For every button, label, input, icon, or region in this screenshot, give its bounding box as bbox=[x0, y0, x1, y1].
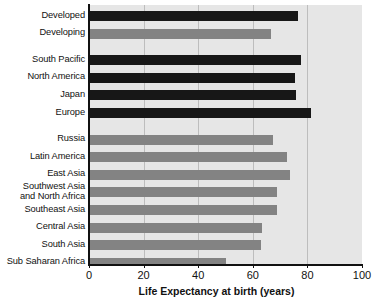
category-label: Russia bbox=[57, 134, 85, 144]
category-label: Southwest Asiaand North Africa bbox=[1, 182, 85, 202]
x-axis-tick bbox=[198, 265, 199, 268]
gridline bbox=[307, 5, 308, 265]
x-axis-title: Life Expectancy at birth (years) bbox=[0, 285, 373, 297]
category-label-column: DevelopedDevelopingSouth PacificNorth Am… bbox=[0, 0, 87, 265]
category-label: South Pacific bbox=[32, 55, 85, 65]
x-axis-tick-label: 80 bbox=[301, 269, 313, 281]
category-label-line: Sub Saharan Africa bbox=[7, 257, 85, 267]
category-label-line: and North Africa bbox=[1, 192, 85, 202]
category-label: South Asia bbox=[42, 240, 85, 250]
bar bbox=[89, 55, 301, 65]
category-label-line: North America bbox=[27, 72, 85, 82]
category-label-line: South Asia bbox=[42, 240, 85, 250]
category-label: Europe bbox=[56, 108, 85, 118]
bar bbox=[89, 90, 296, 100]
x-axis-tick bbox=[253, 265, 254, 268]
x-axis-tick bbox=[362, 265, 363, 268]
category-label-line: Latin America bbox=[30, 152, 85, 162]
bar bbox=[89, 108, 311, 118]
category-label-line: South Pacific bbox=[32, 55, 85, 65]
bar bbox=[89, 11, 298, 21]
category-label-line: Southeast Asia bbox=[24, 205, 85, 215]
category-label: Latin America bbox=[30, 152, 85, 162]
category-label-line: Central Asia bbox=[36, 222, 85, 232]
category-label-line: Russia bbox=[57, 134, 85, 144]
category-label: Southeast Asia bbox=[24, 205, 85, 215]
category-label: Developed bbox=[41, 11, 85, 21]
category-label-line: Japan bbox=[60, 90, 85, 100]
bar bbox=[89, 73, 295, 83]
category-label: Japan bbox=[60, 90, 85, 100]
y-axis-line bbox=[88, 4, 90, 266]
category-label-line: East Asia bbox=[47, 169, 85, 179]
x-axis-tick-label: 0 bbox=[86, 269, 92, 281]
bar bbox=[89, 152, 287, 162]
bar bbox=[89, 205, 277, 215]
category-label: North America bbox=[27, 72, 85, 82]
category-label: East Asia bbox=[47, 169, 85, 179]
category-label: Developing bbox=[39, 28, 85, 38]
plot-area bbox=[89, 5, 362, 265]
x-axis-tick-label: 40 bbox=[192, 269, 204, 281]
x-axis-tick bbox=[144, 265, 145, 268]
bar bbox=[89, 240, 261, 250]
x-axis-tick-label: 20 bbox=[137, 269, 149, 281]
bar bbox=[89, 223, 262, 233]
x-axis-tick-label: 100 bbox=[353, 269, 371, 281]
bar bbox=[89, 29, 271, 39]
x-axis-line bbox=[88, 264, 363, 266]
bar bbox=[89, 135, 273, 145]
bar bbox=[89, 187, 277, 197]
bar bbox=[89, 170, 290, 180]
category-label-line: Developed bbox=[41, 11, 85, 21]
x-axis-tick bbox=[307, 265, 308, 268]
bar-chart: DevelopedDevelopingSouth PacificNorth Am… bbox=[0, 0, 373, 301]
category-label: Central Asia bbox=[36, 222, 85, 232]
category-label: Sub Saharan Africa bbox=[7, 257, 85, 267]
category-label-line: Developing bbox=[39, 28, 85, 38]
x-axis-tick bbox=[89, 265, 90, 268]
x-axis-tick-label: 60 bbox=[247, 269, 259, 281]
category-label-line: Europe bbox=[56, 108, 85, 118]
